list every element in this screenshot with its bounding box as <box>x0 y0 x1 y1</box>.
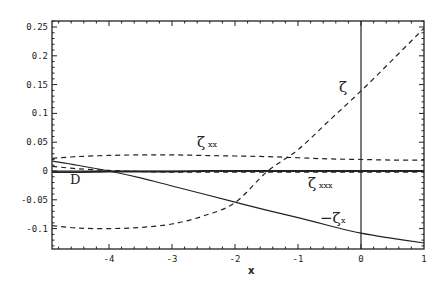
x-tick-label: -3 <box>167 254 178 264</box>
x-tick-label: -4 <box>104 254 115 264</box>
label-zeta-xx: ζ xx <box>197 133 218 151</box>
svg-text:ζ: ζ <box>197 133 205 151</box>
y-tick-label: 0 <box>43 166 48 176</box>
y-tick-label: 0.2 <box>32 51 48 61</box>
label-neg-zeta-x: −ζ x <box>320 209 346 227</box>
svg-text:xxx: xxx <box>319 181 333 190</box>
label-D: D <box>70 172 80 187</box>
y-tick-label: -0.1 <box>26 224 48 234</box>
x-tick-label: 0 <box>358 254 363 264</box>
svg-text:ζ: ζ <box>308 174 316 192</box>
x-tick-label: -2 <box>230 254 241 264</box>
x-tick-label: 1 <box>421 254 426 264</box>
plot-border <box>52 21 424 249</box>
svg-text:xx: xx <box>208 140 218 149</box>
axis-ticks: -4-3-2-1010.250.20.150.10.050-0.05-0.1 <box>21 21 427 264</box>
y-tick-label: 0.25 <box>26 22 48 32</box>
label-zeta-xxx: ζ xxx <box>308 174 333 192</box>
plot-frame <box>52 21 424 249</box>
y-tick-label: 0.1 <box>32 108 48 118</box>
svg-text:−ζ: −ζ <box>320 209 341 227</box>
series-group <box>52 28 424 243</box>
line-chart: -4-3-2-1010.250.20.150.10.050-0.05-0.1 ζ… <box>0 0 446 293</box>
x-axis-title: x <box>248 265 255 276</box>
x-tick-label: -1 <box>293 254 304 264</box>
y-tick-label: -0.05 <box>21 195 48 205</box>
label-zeta: ζ <box>339 78 347 96</box>
curve-labels: ζ ζ xx ζ xxx −ζ x D x <box>70 78 347 276</box>
series-neg-zeta-x <box>52 161 424 243</box>
svg-text:x: x <box>341 216 346 225</box>
y-tick-label: 0.15 <box>26 80 48 90</box>
y-tick-label: 0.05 <box>26 137 48 147</box>
series-zeta-xx <box>52 155 424 160</box>
series-zeta <box>52 28 424 228</box>
